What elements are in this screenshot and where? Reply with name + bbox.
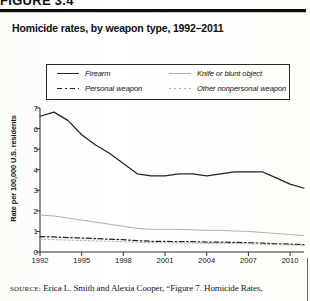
source-caption: SOURCE: Erica L. Smith and Alexia Cooper… xyxy=(10,283,262,293)
legend-item-other-nonpersonal-weapon: Other nonpersonal weapon xyxy=(169,84,286,93)
line-style-solid-icon xyxy=(57,69,79,78)
chart-legend: Firearm Knife or blunt object Personal w… xyxy=(46,64,290,100)
line-style-dotted-light-icon xyxy=(169,84,191,93)
plot-area: Rate per 100,000 U.S. residents 01234567… xyxy=(0,104,310,266)
figure-title: Homicide rates, by weapon type, 1992–201… xyxy=(12,22,224,34)
legend-item-personal-weapon: Personal weapon xyxy=(57,84,142,93)
source-text: Erica L. Smith and Alexia Cooper, “Figur… xyxy=(43,283,262,293)
legend-item-knife-or-blunt-object: Knife or blunt object xyxy=(169,69,262,78)
legend-label: Other nonpersonal weapon xyxy=(197,84,286,93)
line-chart-canvas xyxy=(0,104,310,266)
scanned-page: FIGURE 3.4 Homicide rates, by weapon typ… xyxy=(0,0,310,301)
page-edge-line xyxy=(307,258,308,301)
series-line-other-nonpersonal-weapon xyxy=(40,239,304,245)
source-prefix: SOURCE: xyxy=(10,285,41,293)
legend-label: Firearm xyxy=(85,69,110,78)
legend-item-firearm: Firearm xyxy=(57,69,110,78)
series-line-knife-or-blunt-object xyxy=(40,215,304,236)
line-style-solid-light-icon xyxy=(169,69,191,78)
legend-label: Personal weapon xyxy=(85,84,142,93)
legend-label: Knife or blunt object xyxy=(197,69,262,78)
header-rule-shadow xyxy=(0,12,306,13)
series-line-firearm xyxy=(40,112,304,188)
line-style-dash-dot-icon xyxy=(57,84,79,93)
figure-number-header: FIGURE 3.4 xyxy=(0,0,74,8)
